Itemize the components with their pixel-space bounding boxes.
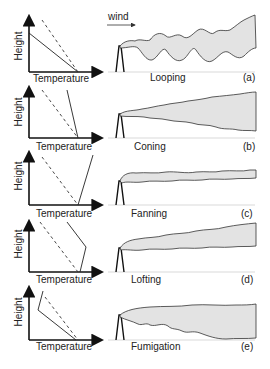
lapse-rate-chart: Height Temperature (13, 288, 101, 352)
smokestack-icon (116, 181, 124, 205)
panel-name: Coning (134, 141, 166, 152)
x-axis-label: Temperature (36, 341, 93, 352)
lapse-rate-chart: Height Temperature (13, 153, 101, 219)
y-axis-label: Height (13, 229, 24, 258)
x-axis-label: Temperature (36, 141, 93, 152)
panel-letter: (c) (241, 208, 253, 219)
smokestack-icon (116, 114, 124, 138)
plume-looping (120, 15, 256, 62)
environmental-lapse-line (38, 291, 76, 340)
panel-name: Fumigation (131, 341, 180, 352)
adiabatic-lapse-line (45, 297, 78, 340)
panel-letter: (a) (243, 72, 255, 83)
panel-letter: (b) (243, 141, 255, 152)
panel-coning: Height Temperature Coning (b) (13, 88, 256, 152)
environmental-lapse-line (78, 155, 93, 205)
smokestack-icon (116, 315, 124, 340)
panel-letter: (e) (241, 341, 253, 352)
panel-name: Lofting (131, 274, 161, 285)
y-axis-label: Height (13, 161, 24, 190)
panel-lofting: Height Temperature Lofting (d) (13, 222, 256, 285)
adiabatic-lapse-line (42, 20, 78, 72)
panel-fumigation: Height Temperature Fumigation (e) (13, 288, 256, 352)
x-axis-label: Temperature (33, 73, 90, 84)
panel-letter: (d) (241, 274, 253, 285)
environmental-lapse-line (67, 222, 86, 272)
environmental-lapse-line (29, 33, 78, 72)
plume-lofting (120, 223, 256, 250)
x-axis-label: Temperature (36, 208, 93, 219)
x-axis-label: Temperature (36, 274, 93, 285)
panel-name: Looping (150, 72, 186, 83)
y-axis-label: Height (13, 31, 24, 60)
y-axis-label: Height (13, 297, 24, 326)
smokestack-icon (116, 248, 124, 272)
y-axis-label: Height (13, 97, 24, 126)
lapse-rate-chart: Height Temperature (13, 17, 101, 84)
lapse-rate-chart: Height Temperature (13, 88, 101, 152)
smokestack-icon (116, 46, 124, 72)
plume-fumigation (120, 304, 256, 339)
wind-indicator: wind (107, 11, 135, 25)
plume-fanning (120, 170, 256, 183)
panel-name: Fanning (131, 208, 167, 219)
panel-fanning: Height Temperature Fanning (c) (13, 153, 256, 219)
adiabatic-lapse-line (42, 157, 78, 205)
lapse-rate-chart: Height Temperature (13, 222, 101, 285)
plume-coning (120, 92, 256, 131)
plume-behavior-diagram: wind Height Temperature Looping (a) Heig… (0, 0, 270, 369)
wind-label: wind (107, 11, 129, 22)
